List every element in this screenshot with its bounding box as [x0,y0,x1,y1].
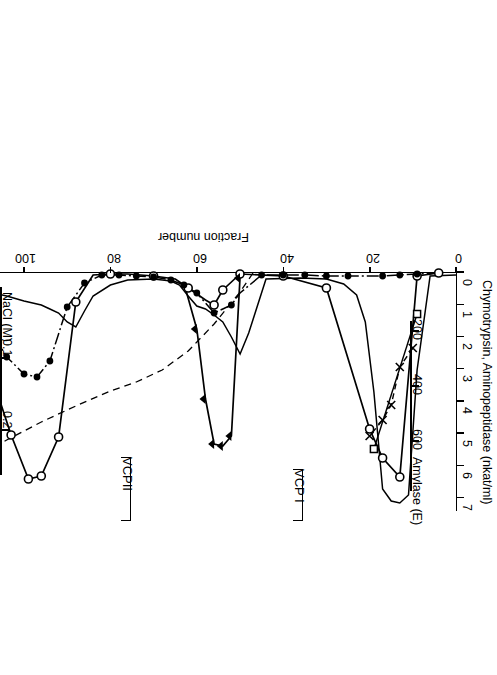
amylase-ticklabel-400: 400 [411,374,424,395]
y1-axis-label: Chymotrypsin, Aminopeptidase (nkat/ml) [481,280,494,504]
x-ticklabel-40: 40 [280,252,294,265]
amylase-ticklabel-200: 200 [411,319,424,340]
y1-ticklabel-3: 3 [461,375,474,382]
y1-ticklabel-0: 0 [461,279,474,286]
x-ticklabel-100: 100 [15,252,36,265]
x-ticklabel-80: 80 [107,252,121,265]
markers-aminopeptidase-filled-circle [0,271,421,381]
nacl-axis-label: NaCl (M) [1,292,14,342]
y1-ticklabel-5: 5 [461,440,474,447]
x-axis-label: Fraction number [158,231,249,244]
amylase-axis-label: Amylase (E) [411,457,424,525]
y1-tick-6 [457,465,464,467]
x-tick-40 [283,267,285,273]
nacl-tick-0.2 [2,430,9,432]
x-tick-60 [196,267,198,273]
plot-area [0,272,457,511]
vcp2-bracket-label: VCPII [120,457,135,491]
x-tick-80 [110,267,112,273]
x-tick-20 [369,267,371,273]
chromatography-figure: 0 20 40 60 80 100 120 Fraction number 0 … [0,140,497,535]
x-ticklabel-0: 0 [455,252,462,265]
vcp1-bracket-label: VCP I [292,469,307,503]
curve-layer [0,273,456,511]
x-ticklabel-60: 60 [193,252,207,265]
amylase-ticklabel-600: 600 [411,429,424,450]
nacl-tick-0.1 [2,358,9,360]
y1-ticklabel-6: 6 [461,472,474,479]
y1-ticklabel-1: 1 [461,311,474,318]
y1-tick-5 [457,432,464,434]
nacl-ticklabel-0.2: 0.2 [1,411,14,428]
y1-ticklabel-4: 4 [461,407,474,414]
y1-tick-3 [457,368,464,370]
x-ticklabel-20: 20 [366,252,380,265]
y1-ticklabel-2: 2 [461,343,474,350]
y1-tick-7 [457,497,464,499]
y1-tick-1 [457,304,464,306]
y1-tick-2 [457,336,464,338]
y1-ticklabel-7: 7 [461,504,474,511]
x-tick-100 [24,267,26,273]
y1-tick-4 [457,400,464,402]
y1-tick-0 [457,272,464,274]
